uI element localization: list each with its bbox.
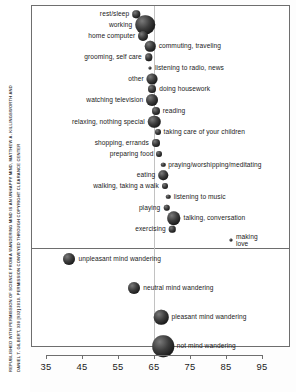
x-axis-tick-label: 75 (185, 361, 196, 372)
data-point-label: commuting, traveling (159, 43, 221, 50)
data-point-label: talking, conversation (184, 215, 246, 222)
data-point-label: other (128, 75, 143, 82)
data-point-label: taking care of your children (164, 129, 245, 136)
data-point-label: listening to radio, news (155, 64, 224, 71)
figure-container: REPUBLISHED WITH PERMISSION OF SCIENCE F… (0, 0, 296, 392)
data-point-label: walking, taking a walk (93, 182, 159, 189)
data-bubble (138, 31, 148, 41)
credit-strip: REPUBLISHED WITH PERMISSION OF SCIENCE F… (0, 0, 30, 392)
data-point-label: shopping, errands (95, 139, 149, 146)
data-point-label: reading (163, 107, 186, 114)
data-bubble (169, 226, 176, 233)
data-bubble (230, 238, 233, 241)
data-point-label: preparing food (110, 150, 154, 157)
data-point-label: doing housework (159, 86, 210, 93)
data-bubble (146, 94, 158, 106)
data-point-label: not mind wandering (177, 342, 236, 349)
data-bubble (154, 310, 169, 325)
x-axis-tick-label: 85 (221, 361, 232, 372)
data-point-label: working (109, 21, 132, 28)
data-bubble (145, 53, 153, 61)
data-bubble (163, 204, 170, 211)
data-point-label: playing (139, 204, 160, 211)
data-bubble (148, 85, 156, 93)
x-axis-tick (118, 355, 119, 359)
data-bubble (152, 139, 160, 147)
data-point-label: watching television (86, 96, 143, 103)
data-bubble (167, 212, 181, 226)
data-point-label: making love (236, 232, 270, 247)
data-bubble (152, 107, 160, 115)
x-axis-tick-label: 95 (257, 361, 268, 372)
x-axis-tick (262, 355, 263, 359)
x-axis-tick-label: 45 (77, 361, 88, 372)
data-point-label: rest/sleep (100, 10, 129, 17)
x-axis-tick (190, 355, 191, 359)
x-axis-tick (46, 355, 47, 359)
data-point-label: pleasant mind wandering (171, 313, 246, 320)
credit-text-line-1: REPUBLISHED WITH PERMISSION OF SCIENCE F… (8, 85, 13, 372)
data-bubble (155, 129, 161, 135)
data-bubble (128, 282, 140, 294)
data-point-label: eating (137, 172, 155, 179)
data-bubble (166, 195, 171, 200)
x-axis-tick (82, 355, 83, 359)
data-bubble (148, 115, 161, 128)
data-point-label: unpleasant mind wandering (78, 255, 161, 262)
credit-text-line-2: DANIEL T. GILBERT, 330 [932] 2010. PERMI… (16, 144, 21, 372)
data-point-label: home computer (88, 32, 135, 39)
data-bubble (161, 162, 166, 167)
x-axis-tick (154, 355, 155, 359)
data-point-label: neutral mind wandering (143, 284, 213, 291)
data-bubble (152, 335, 174, 357)
data-bubble (147, 73, 158, 84)
data-point-label: grooming, self care (84, 53, 142, 60)
data-point-label: listening to music (174, 193, 226, 200)
data-point-label: relaxing, nothing special (72, 118, 145, 125)
x-axis-tick-label: 65 (149, 361, 160, 372)
data-bubble (63, 253, 75, 265)
x-axis-tick-label: 35 (41, 361, 52, 372)
data-point-label: praying/worshipping/meditating (168, 161, 261, 168)
x-axis-tick-label: 55 (113, 361, 124, 372)
data-bubble (145, 41, 156, 52)
data-bubble (149, 66, 152, 69)
data-bubble (158, 171, 168, 181)
data-bubble (156, 151, 162, 157)
x-axis-tick (226, 355, 227, 359)
data-point-label: exercising (135, 225, 166, 232)
panel-divider (31, 248, 290, 249)
data-bubble (162, 183, 168, 189)
